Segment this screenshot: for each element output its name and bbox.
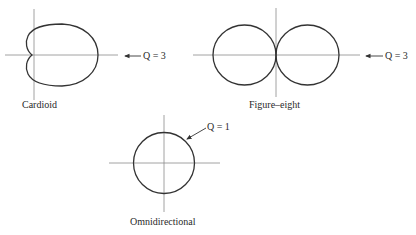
omni-caption: Omnidirectional <box>130 217 196 227</box>
figure-eight-caption: Figure–eight <box>249 100 300 110</box>
polar-patterns-figure <box>0 0 416 235</box>
cardioid-q-label: Q = 3 <box>143 51 166 61</box>
figure-eight-q-label: Q = 3 <box>385 51 408 61</box>
omni-q-label: Q = 1 <box>207 122 230 132</box>
cardioid-diagram <box>5 9 141 100</box>
omni-q-arrow <box>187 128 206 139</box>
figure-eight-diagram <box>193 8 383 97</box>
cardioid-caption: Cardioid <box>22 100 57 110</box>
omnidirectional-diagram <box>109 115 220 212</box>
